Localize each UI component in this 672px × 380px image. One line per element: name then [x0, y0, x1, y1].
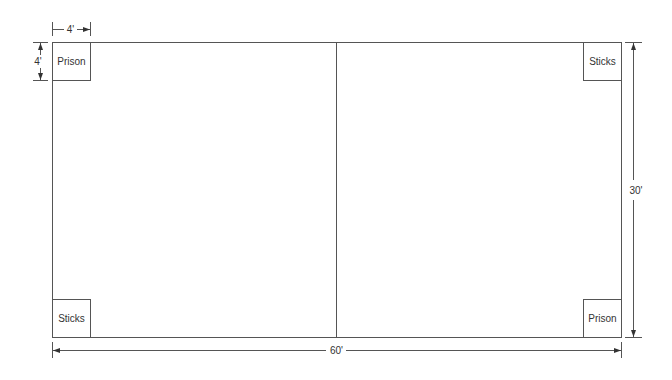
svg-text:4': 4' [67, 24, 75, 35]
box-height-dimension: 4' [33, 43, 48, 81]
box-label: Sticks [589, 56, 616, 67]
svg-text:4': 4' [34, 56, 42, 67]
field-diagram: Prison Sticks Sticks Prison 4' 4' 30' [0, 0, 672, 380]
svg-text:60': 60' [330, 345, 343, 356]
box-label: Prison [57, 56, 85, 67]
box-top-right-sticks: Sticks [584, 43, 622, 81]
box-bottom-right-prison: Prison [584, 300, 622, 338]
box-label: Prison [588, 313, 616, 324]
box-label: Sticks [58, 313, 85, 324]
box-width-dimension: 4' [53, 22, 91, 36]
field-height-dimension: 30' [625, 43, 643, 338]
box-bottom-left-sticks: Sticks [53, 300, 91, 338]
box-top-left-prison: Prison [53, 43, 91, 81]
field-width-dimension: 60' [53, 342, 622, 358]
svg-text:30': 30' [629, 185, 642, 196]
